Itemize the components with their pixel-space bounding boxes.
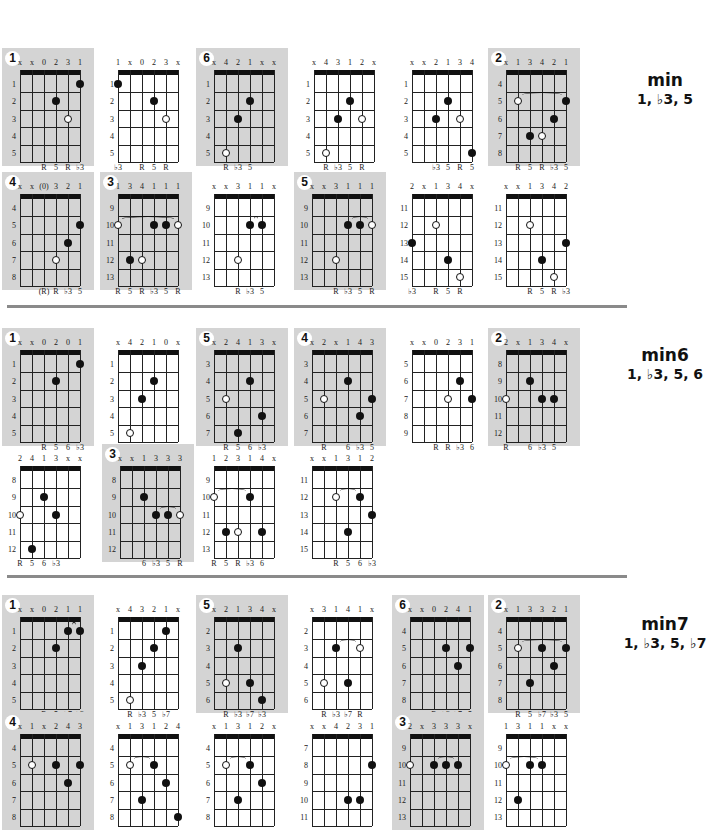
fretboard-grid — [20, 70, 80, 162]
fret-number: 11 — [8, 527, 16, 536]
string-line — [262, 350, 263, 442]
finger-number: x — [422, 58, 426, 67]
finger-number: 3 — [248, 605, 252, 614]
fret-line — [214, 269, 274, 270]
string-line — [348, 350, 349, 442]
finger-number: x — [310, 182, 314, 191]
interval-label: 5 — [348, 163, 352, 172]
fret-line — [214, 826, 274, 827]
interval-label: R — [333, 287, 338, 296]
string-line — [518, 617, 519, 709]
finger-number: 1 — [176, 182, 180, 191]
root-dot — [64, 115, 72, 123]
finger-number: x — [420, 722, 424, 731]
finger-number: 2 — [54, 722, 58, 731]
fretboard-grid — [314, 70, 374, 162]
string-line — [238, 617, 239, 709]
finger-number: x — [310, 605, 314, 614]
finger-number: x — [410, 338, 414, 347]
fret-number: 8 — [112, 475, 116, 484]
interval-label: 6 — [42, 559, 46, 568]
finger-number: 2 — [66, 182, 70, 191]
finger-number: 0 — [164, 338, 168, 347]
string-line — [142, 734, 143, 826]
interval-label: R — [177, 559, 182, 568]
finger-number: 3 — [54, 454, 58, 463]
fret-number: 13 — [202, 273, 210, 282]
fret-line — [118, 809, 178, 810]
finger-number: 3 — [334, 182, 338, 191]
fret-number: 5 — [206, 678, 210, 687]
fretboard-grid — [506, 194, 566, 286]
root-dot — [222, 149, 230, 157]
fret-number: 12 — [494, 795, 502, 804]
finger-numbers: x4210x — [118, 338, 178, 348]
section-divider — [7, 575, 627, 578]
fretboard-grid — [506, 617, 566, 709]
finger-number: 1 — [66, 605, 70, 614]
fret-number: 12 — [400, 221, 408, 230]
string-line — [226, 734, 227, 826]
finger-numbers: xx0211 — [20, 605, 80, 615]
fret-number: 7 — [304, 743, 308, 752]
finger-number: 1 — [334, 454, 338, 463]
string-line — [518, 350, 519, 442]
root-dot — [502, 761, 510, 769]
finger-number: 1 — [78, 338, 82, 347]
fret-number: 8 — [304, 761, 308, 770]
finger-number: 3 — [370, 338, 374, 347]
finger-dot — [138, 796, 146, 804]
fret-line — [312, 674, 372, 675]
finger-dot — [368, 511, 376, 519]
finger-number: 3 — [178, 454, 182, 463]
finger-dot — [332, 644, 340, 652]
string-line — [424, 70, 425, 162]
fretboard-grid — [312, 466, 372, 558]
finger-numbers: xx0231 — [412, 338, 472, 348]
fret-number: 4 — [12, 743, 16, 752]
fretboard-grid — [20, 617, 80, 709]
barre-arc — [134, 756, 150, 762]
fret-line — [20, 692, 80, 693]
fret-line — [312, 407, 372, 408]
string-line — [250, 466, 251, 558]
fret-number: 15 — [300, 545, 308, 554]
finger-number: 2 — [564, 182, 568, 191]
string-line — [120, 466, 121, 558]
section-divider — [7, 305, 627, 308]
fret-line — [412, 251, 472, 252]
fret-number: 11 — [400, 203, 408, 212]
fret-line — [412, 372, 472, 373]
string-line — [250, 350, 251, 442]
root-dot — [126, 696, 134, 704]
fret-line — [410, 639, 470, 640]
finger-number: x — [176, 338, 180, 347]
interval-label: ♭3 — [334, 163, 342, 172]
string-line — [32, 617, 33, 709]
fret-line — [410, 674, 470, 675]
fret-number: 9 — [498, 743, 502, 752]
fret-line — [410, 791, 470, 792]
finger-number: x — [116, 605, 120, 614]
fret-line — [312, 523, 372, 524]
fret-line — [312, 234, 372, 235]
fret-line — [506, 657, 566, 658]
fret-number: 7 — [498, 131, 502, 140]
fret-number: 9 — [404, 429, 408, 438]
string-line — [542, 70, 543, 162]
nut — [214, 617, 274, 622]
fret-number: 3 — [206, 359, 210, 368]
fret-number: 4 — [12, 203, 16, 212]
string-line — [118, 350, 119, 442]
finger-number: 2 — [370, 454, 374, 463]
string-line — [274, 734, 275, 826]
finger-number: 4 — [456, 605, 460, 614]
finger-number: 2 — [236, 58, 240, 67]
fret-number: 6 — [110, 778, 114, 787]
fret-line — [214, 286, 274, 287]
root-dot — [234, 256, 242, 264]
fret-line — [412, 145, 472, 146]
fret-line — [214, 809, 274, 810]
fret-line — [214, 92, 274, 93]
string-line — [178, 350, 179, 442]
